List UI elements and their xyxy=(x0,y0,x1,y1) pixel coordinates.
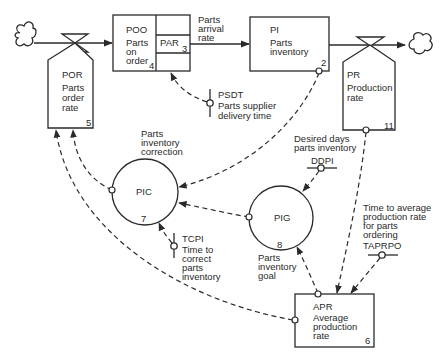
tcpi-label-4: inventory xyxy=(182,272,221,282)
pic-abbr: PIC xyxy=(136,187,152,197)
por-abbr: POR xyxy=(62,70,83,80)
poo-label-3: order xyxy=(126,56,148,66)
ddpi-label-2: parts inventory xyxy=(294,143,356,153)
pig-label-3: goal xyxy=(258,271,276,281)
pr-number: 11 xyxy=(384,121,394,131)
apr-label-3: rate xyxy=(313,331,329,341)
pi-abbr: PI xyxy=(270,25,279,35)
source-cloud-icon xyxy=(15,22,36,46)
psdt-label-2: delivery time xyxy=(218,111,271,121)
link-tcpi-to-pic xyxy=(159,223,172,243)
par-abbr: PAR xyxy=(160,38,179,48)
link-psdt-to-par xyxy=(171,73,207,102)
pr-abbr: PR xyxy=(347,70,360,80)
par-number: 3 xyxy=(182,44,187,54)
link-pr-to-apr xyxy=(337,132,366,293)
pig-abbr: PIG xyxy=(274,213,290,223)
apr-abbr: APR xyxy=(313,302,333,312)
poo-abbr: POO xyxy=(126,25,147,35)
psdt-constant-icon xyxy=(207,100,213,106)
apr-number: 6 xyxy=(365,336,370,346)
par-label-3: rate xyxy=(198,33,214,43)
pic-label-3: correction xyxy=(141,147,183,157)
link-pig-to-pic xyxy=(179,203,249,217)
flow-diagram-canvas xyxy=(0,0,445,360)
taprpo-constant-icon xyxy=(379,252,385,258)
link-pic-to-por xyxy=(73,130,112,190)
pi-label-2: inventory xyxy=(270,47,309,57)
tcpi-abbr: TCPI xyxy=(182,234,204,244)
pig-number: 8 xyxy=(277,240,282,250)
pi-number: 2 xyxy=(321,58,326,68)
link-pi-to-pic xyxy=(179,73,319,187)
taprpo-abbr: TAPRPO xyxy=(363,241,401,251)
ddpi-abbr: DDPI xyxy=(311,156,334,166)
pr-label-2: rate xyxy=(347,93,363,103)
tcpi-constant-icon xyxy=(171,243,177,249)
poo-number: 4 xyxy=(149,61,154,71)
pic-number: 7 xyxy=(141,214,146,224)
taprpo-label-4: ordering xyxy=(363,230,398,240)
link-ddpi-to-pig xyxy=(303,171,319,191)
link-apr-to-pig xyxy=(297,247,318,293)
por-label-3: rate xyxy=(62,103,78,113)
sink-cloud-icon xyxy=(409,33,432,54)
link-taprpo-to-apr xyxy=(351,258,380,293)
psdt-abbr: PSDT xyxy=(218,90,243,100)
por-number: 5 xyxy=(86,118,91,128)
